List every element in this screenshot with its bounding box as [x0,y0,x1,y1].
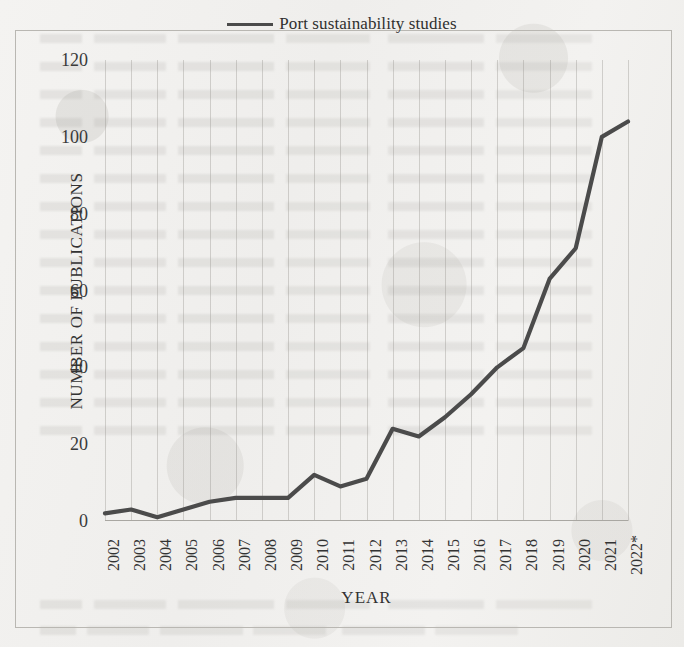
x-axis-tick-2014: 2014 [419,539,437,571]
x-axis-tick-2022-star: 2022* [628,535,646,575]
x-axis-tick-2015: 2015 [445,539,463,571]
legend-label-port-sustainability-studies: Port sustainability studies [279,14,456,34]
x-axis-tick-2017: 2017 [497,539,515,571]
y-axis-tick-0: 0 [79,511,88,532]
x-axis-tick-2003: 2003 [131,539,149,571]
x-axis-tick-2009: 2009 [288,539,306,571]
y-axis-title-wrap: NUMBER OF PUBLICATIONS [52,60,72,521]
x-axis-tick-2020: 2020 [576,539,594,571]
x-axis-tick-2007: 2007 [236,539,254,571]
x-axis-tick-2021: 2021 [602,539,620,571]
x-axis-tick-2002: 2002 [105,539,123,571]
chart-legend: Port sustainability studies [0,14,684,34]
x-axis-tick-2004: 2004 [157,539,175,571]
x-axis-tick-2006: 2006 [210,539,228,571]
y-axis-title: NUMBER OF PUBLICATIONS [67,126,87,456]
x-axis-tick-2018: 2018 [523,539,541,571]
plot-area [105,60,628,521]
x-axis-tick-2005: 2005 [183,539,201,571]
x-axis-tick-2019: 2019 [550,539,568,571]
x-axis-tick-2013: 2013 [393,539,411,571]
x-axis-tick-2012: 2012 [367,539,385,571]
x-axis-tick-2010: 2010 [314,539,332,571]
legend-line-swatch [227,23,273,26]
x-axis-baseline [105,520,628,521]
x-axis-tick-2011: 2011 [340,539,358,570]
x-axis-title: YEAR [105,588,628,608]
x-axis-tick-labels: 2002200320042005200620072008200920102011… [105,525,628,593]
gridline-2022* [628,60,629,521]
x-axis-tick-2016: 2016 [471,539,489,571]
series-line-port-sustainability-studies [105,60,628,521]
x-axis-tick-2008: 2008 [262,539,280,571]
